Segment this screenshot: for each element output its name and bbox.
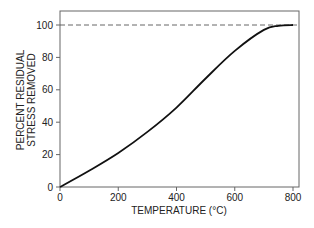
- y-tick-label: 40: [42, 117, 54, 128]
- x-axis: 0200400600800: [57, 187, 302, 203]
- x-tick-label: 0: [57, 192, 63, 203]
- x-tick-label: 800: [285, 192, 302, 203]
- chart: 020406080100 0200400600800 TEMPERATURE (…: [0, 0, 314, 228]
- x-tick-label: 400: [168, 192, 185, 203]
- data-line: [60, 25, 293, 187]
- x-tick-label: 600: [226, 192, 243, 203]
- y-tick-label: 20: [42, 149, 54, 160]
- plot-frame: [60, 11, 299, 187]
- y-tick-label: 0: [47, 182, 53, 193]
- y-tick-label: 60: [42, 84, 54, 95]
- y-tick-label: 100: [36, 20, 53, 31]
- y-axis: 020406080100: [36, 20, 60, 193]
- x-axis-label: TEMPERATURE (°C): [131, 205, 226, 216]
- x-tick-label: 200: [110, 192, 127, 203]
- y-tick-label: 80: [42, 52, 54, 63]
- y-axis-label-line2: STRESS REMOVED: [26, 53, 37, 146]
- y-axis-label-line1: PERCENT RESIDUAL: [15, 49, 26, 150]
